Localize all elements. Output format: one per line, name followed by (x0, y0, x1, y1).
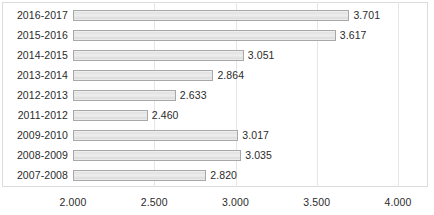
bar (73, 30, 336, 41)
x-tick-label: 4.000 (385, 196, 412, 208)
bar-rows: 2016-20173.7012015-20163.6172014-20153.0… (0, 0, 434, 187)
bar-chart: 2016-20173.7012015-20163.6172014-20153.0… (0, 0, 434, 215)
category-label: 2014-2015 (0, 50, 68, 61)
category-label: 2012-2013 (0, 90, 68, 101)
bar-row: 2015-20163.617 (0, 30, 434, 50)
bar-row: 2012-20132.633 (0, 90, 434, 110)
bar-value-label: 3.701 (353, 10, 380, 21)
bar-value-label: 3.035 (245, 150, 272, 161)
bar (73, 150, 241, 161)
bar (73, 10, 349, 21)
bar (73, 130, 238, 141)
bar-value-label: 3.051 (248, 50, 275, 61)
category-label: 2008-2009 (0, 150, 68, 161)
x-tick-label: 3.500 (303, 196, 330, 208)
bar-row: 2009-20103.017 (0, 130, 434, 150)
x-tick-label: 3.000 (222, 196, 249, 208)
bar (73, 50, 244, 61)
bar-value-label: 2.460 (152, 110, 179, 121)
bar (73, 110, 148, 121)
bar-value-label: 2.864 (217, 70, 244, 81)
bar-row: 2014-20153.051 (0, 50, 434, 70)
category-label: 2016-2017 (0, 10, 68, 21)
x-tick-label: 2.000 (60, 196, 87, 208)
bar-row: 2008-20093.035 (0, 150, 434, 170)
bar-value-label: 3.617 (340, 30, 367, 41)
bar-row: 2013-20142.864 (0, 70, 434, 90)
bar-row: 2011-20122.460 (0, 110, 434, 130)
bar (73, 90, 176, 101)
category-label: 2007-2008 (0, 170, 68, 181)
bar-row: 2016-20173.701 (0, 10, 434, 30)
x-axis: 2.0002.5003.0003.5004.000 (0, 188, 434, 215)
bar-value-label: 3.017 (242, 130, 269, 141)
bar-row: 2007-20082.820 (0, 170, 434, 190)
category-label: 2015-2016 (0, 30, 68, 41)
category-label: 2009-2010 (0, 130, 68, 141)
bar-value-label: 2.633 (180, 90, 207, 101)
category-label: 2011-2012 (0, 110, 68, 121)
category-label: 2013-2014 (0, 70, 68, 81)
bar (73, 70, 213, 81)
bar (73, 170, 206, 181)
bar-value-label: 2.820 (210, 170, 237, 181)
x-tick-label: 2.500 (141, 196, 168, 208)
